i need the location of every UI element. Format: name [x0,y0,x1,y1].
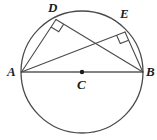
point-dots-group [80,70,84,74]
geometry-canvas [0,0,157,140]
point-label-d: D [48,1,57,14]
point-label-e: E [120,7,129,20]
point-label-a: A [7,65,16,78]
geometry-figure: A B C D E [0,0,157,140]
point-label-c: C [77,78,86,91]
right-angle-mark-d [51,24,64,32]
point-label-b: B [146,65,155,78]
segment-db [56,20,143,73]
center-point-c [80,70,84,74]
